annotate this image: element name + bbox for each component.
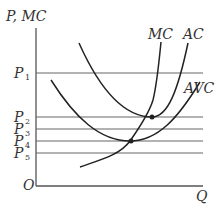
svg-text:2: 2 [25, 117, 30, 126]
svg-text:4: 4 [25, 141, 30, 150]
y-axis-label: P, MC [5, 8, 47, 24]
svg-text:P: P [13, 65, 24, 81]
mc-avc-min-point [129, 139, 134, 144]
x-axis-label: Q [196, 188, 208, 204]
svg-text:5: 5 [25, 153, 30, 162]
mc-ac-min-point [150, 115, 155, 120]
ac-curve [79, 43, 188, 117]
svg-text:1: 1 [25, 73, 30, 82]
svg-text:P: P [13, 145, 24, 161]
cost-curves-chart: P, MC Q O MC AC AVC P 1 P 2 P 3 P 4 P 5 [0, 0, 220, 212]
svg-text:3: 3 [25, 129, 30, 138]
mc-label: MC [147, 26, 173, 42]
avc-curve [51, 80, 200, 141]
avc-label: AVC [182, 80, 215, 96]
ac-label: AC [181, 26, 204, 42]
origin-label: O [23, 177, 35, 193]
p1-label: P 1 [13, 65, 30, 82]
